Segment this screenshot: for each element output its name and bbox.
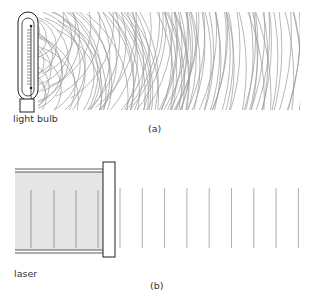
wavefront-arc <box>228 0 270 168</box>
laser <box>15 162 115 257</box>
laser-output-mirror <box>103 162 115 257</box>
wavefront-arc <box>159 0 199 132</box>
light-bulb <box>18 12 38 112</box>
wavefront-arc <box>42 0 75 73</box>
wavefront-arc <box>71 0 114 98</box>
bulb-base <box>20 99 34 112</box>
filament-bottom-contact <box>30 87 33 90</box>
wavefront-arc <box>118 0 158 177</box>
wavefront-arc <box>264 0 307 205</box>
diagram-canvas <box>0 0 312 300</box>
coherent-plane-wavefronts <box>120 188 298 248</box>
wavefront-arc <box>223 0 265 165</box>
filament-top-contact <box>30 25 33 28</box>
wavefront-arc <box>180 0 221 180</box>
panel-a-caption: (a) <box>148 123 161 134</box>
wavefront-arc <box>179 0 220 170</box>
wavefront-arc <box>205 0 246 197</box>
panel-b-caption: (b) <box>150 280 163 291</box>
bulb-envelope <box>18 12 38 100</box>
wavefront-arc <box>216 0 258 189</box>
laser-cavity <box>15 172 103 250</box>
light-bulb-label: light bulb <box>13 113 58 124</box>
laser-label: laser <box>14 268 37 279</box>
